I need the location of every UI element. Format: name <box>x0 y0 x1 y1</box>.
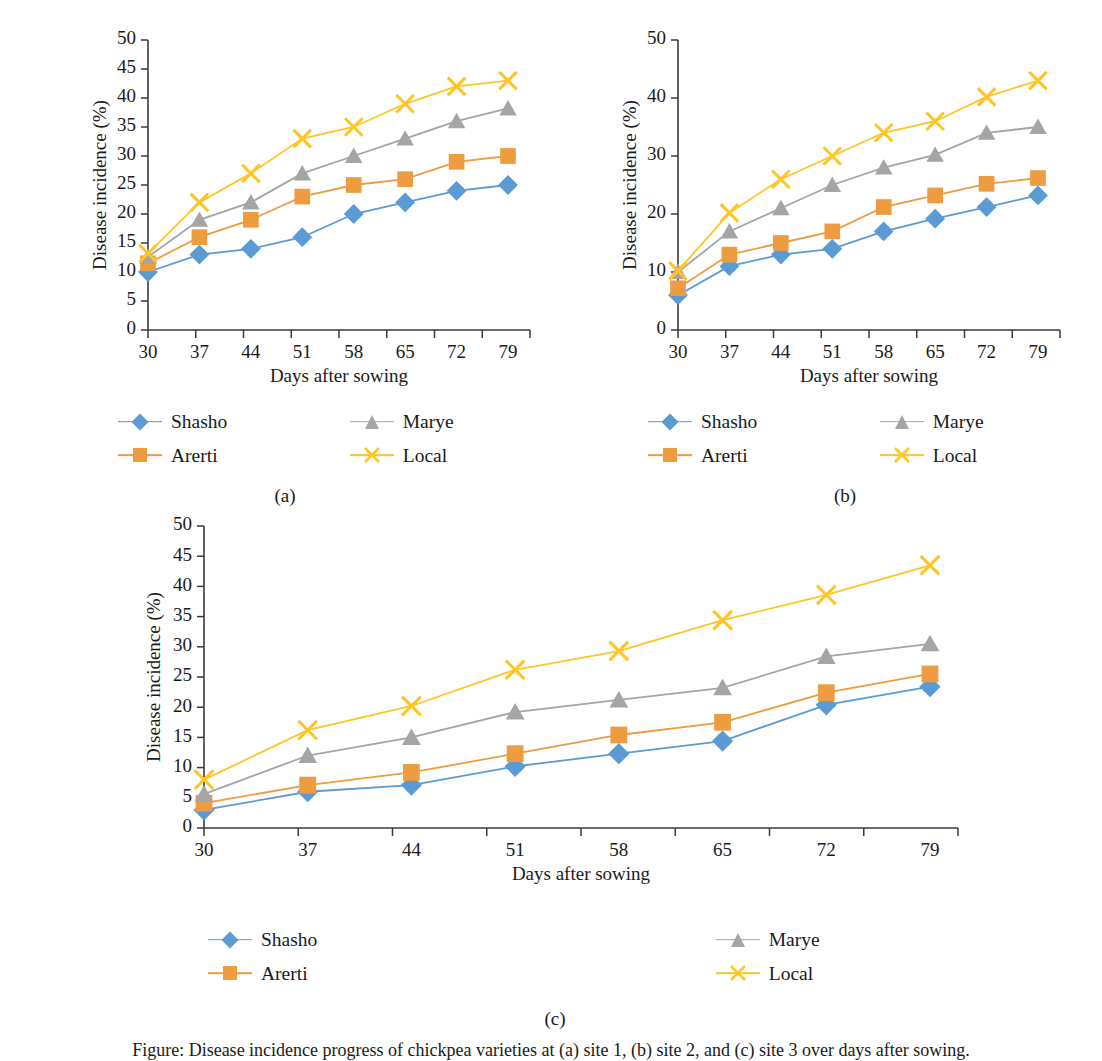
triangle-marker-icon <box>396 130 414 145</box>
triangle-marker-icon <box>1029 119 1047 134</box>
triangle-marker-icon <box>921 635 940 652</box>
x-tick-label: 72 <box>447 341 466 362</box>
diamond-marker-icon <box>822 239 842 259</box>
y-tick-label: 5 <box>183 785 193 806</box>
triangle-marker-icon <box>772 200 790 215</box>
y-tick-label: 20 <box>173 695 192 716</box>
cross-marker-icon <box>191 194 209 212</box>
legend-label: Local <box>933 446 977 466</box>
y-tick-label: 30 <box>173 634 192 655</box>
panel-caption-b: (b) <box>815 485 875 507</box>
triangle-marker-icon <box>345 148 363 163</box>
x-axis-title: Days after sowing <box>512 863 651 884</box>
square-marker-icon <box>299 777 316 794</box>
triangle-marker-icon <box>350 413 394 431</box>
cross-marker-icon <box>817 585 836 604</box>
legend-item-arerti[interactable]: Arerti <box>118 446 292 466</box>
legend-item-shasho[interactable]: Shasho <box>648 412 822 432</box>
panel-caption-a: (a) <box>255 485 315 507</box>
cross-marker-icon <box>716 964 760 982</box>
legend-item-arerti[interactable]: Arerti <box>648 446 822 466</box>
cross-marker-icon <box>921 556 940 575</box>
square-marker-icon <box>979 176 995 192</box>
x-tick-label: 37 <box>190 341 209 362</box>
x-tick-label: 30 <box>669 341 688 362</box>
diamond-marker-icon <box>208 931 252 949</box>
square-marker-icon <box>192 229 208 245</box>
cross-marker-icon <box>721 204 739 222</box>
legend-label: Arerti <box>261 964 308 984</box>
x-tick-label: 44 <box>402 839 422 860</box>
x-tick-label: 51 <box>293 341 312 362</box>
cross-marker-icon <box>880 446 924 464</box>
x-tick-label: 44 <box>241 341 261 362</box>
diamond-marker-icon <box>292 227 312 247</box>
legend-item-shasho[interactable]: Shasho <box>208 930 386 950</box>
x-tick-label: 72 <box>817 839 836 860</box>
square-marker-icon <box>714 714 731 731</box>
x-tick-label: 51 <box>506 839 525 860</box>
chart-b-canvas: 010203040503037445158657279Days after so… <box>608 22 1088 402</box>
legend-item-shasho[interactable]: Shasho <box>118 412 292 432</box>
x-tick-label: 79 <box>921 839 940 860</box>
cross-marker-icon <box>713 611 732 630</box>
legend-item-local[interactable]: Local <box>880 446 1048 466</box>
cross-marker-icon <box>396 95 414 113</box>
diamond-marker-icon <box>190 245 210 265</box>
x-tick-label: 65 <box>396 341 415 362</box>
series-shasho <box>668 186 1048 306</box>
cross-marker-icon <box>402 697 421 716</box>
panel-a: 051015202530354045503037445158657279Days… <box>78 22 558 402</box>
y-tick-label: 20 <box>117 201 136 222</box>
diamond-marker-icon <box>648 413 692 431</box>
diamond-marker-icon <box>608 743 629 764</box>
cross-marker-icon <box>875 124 893 142</box>
square-marker-icon <box>507 745 524 762</box>
legend-label: Marye <box>403 412 454 432</box>
y-tick-label: 5 <box>127 288 137 309</box>
y-tick-label: 50 <box>647 27 666 48</box>
legend-item-local[interactable]: Local <box>350 446 518 466</box>
legend-item-arerti[interactable]: Arerti <box>208 964 386 984</box>
legend-item-marye[interactable]: Marye <box>880 412 1048 432</box>
diamond-marker-icon <box>498 175 518 195</box>
series-line <box>148 156 508 263</box>
y-axis-title: Disease incidence (%) <box>619 100 641 270</box>
legend-label: Marye <box>933 412 984 432</box>
y-tick-label: 10 <box>647 259 666 280</box>
cross-marker-icon <box>506 660 525 679</box>
square-marker-icon <box>294 189 310 205</box>
diamond-marker-icon <box>712 730 733 751</box>
legend-item-marye[interactable]: Marye <box>350 412 518 432</box>
square-marker-icon <box>397 171 413 187</box>
diamond-marker-icon <box>118 413 162 431</box>
panel-c: 051015202530354045503037445158657279Days… <box>130 508 990 898</box>
diamond-marker-icon <box>925 209 945 229</box>
panel-caption-c: (c) <box>525 1008 585 1030</box>
legend-item-marye[interactable]: Marye <box>716 930 888 950</box>
y-tick-label: 35 <box>173 604 192 625</box>
x-tick-label: 58 <box>609 839 628 860</box>
y-tick-label: 0 <box>183 815 193 836</box>
series-line <box>204 565 930 779</box>
y-tick-label: 35 <box>117 114 136 135</box>
y-axis-title: Disease incidence (%) <box>143 592 165 762</box>
chart-a-canvas: 051015202530354045503037445158657279Days… <box>78 22 558 402</box>
legend-b: Shasho Marye Arerti Local <box>648 412 1048 465</box>
square-marker-icon <box>824 224 840 240</box>
legend-item-local[interactable]: Local <box>716 964 888 984</box>
square-marker-icon <box>818 684 835 701</box>
y-tick-label: 15 <box>117 230 136 251</box>
cross-marker-icon <box>824 147 842 165</box>
x-tick-label: 58 <box>874 341 893 362</box>
legend-label: Shasho <box>261 930 317 950</box>
diamond-marker-icon <box>241 239 261 259</box>
series-arerti <box>196 666 939 812</box>
cross-marker-icon <box>298 721 317 740</box>
y-tick-label: 25 <box>173 664 192 685</box>
cross-marker-icon <box>242 165 260 183</box>
triangle-marker-icon <box>824 177 842 192</box>
square-marker-icon <box>449 154 465 170</box>
legend-c: Shasho Marye Arerti Local <box>208 930 888 983</box>
legend-label: Shasho <box>701 412 757 432</box>
